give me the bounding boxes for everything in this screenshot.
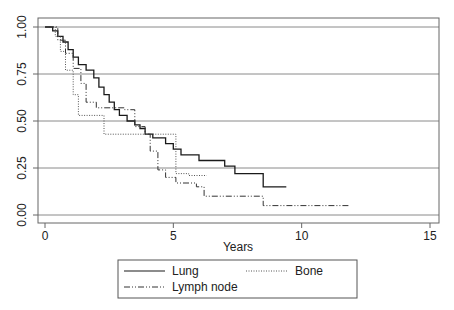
legend-label-lymph-node: Lymph node <box>172 280 238 294</box>
y-tick-label: 0.50 <box>15 109 29 133</box>
legend: Lung Bone Lymph node <box>118 260 357 298</box>
kaplan-meier-chart: 0.000.250.500.751.00 051015 Years Lung B… <box>0 0 454 310</box>
survival-curves <box>45 27 350 206</box>
legend-label-bone: Bone <box>295 264 323 278</box>
curve-lymph-node <box>45 27 350 206</box>
y-axis: 0.000.250.500.751.00 <box>15 15 38 227</box>
x-axis-title: Years <box>223 240 253 254</box>
y-tick-label: 0.75 <box>15 62 29 86</box>
curve-lung <box>45 27 286 187</box>
y-tick-label: 1.00 <box>15 15 29 39</box>
x-tick-label: 0 <box>42 229 49 243</box>
y-tick-label: 0.00 <box>15 203 29 227</box>
gridlines <box>38 27 439 215</box>
x-tick-label: 15 <box>423 229 437 243</box>
x-tick-label: 5 <box>170 229 177 243</box>
x-tick-label: 10 <box>295 229 309 243</box>
y-tick-label: 0.25 <box>15 156 29 180</box>
legend-label-lung: Lung <box>172 264 199 278</box>
